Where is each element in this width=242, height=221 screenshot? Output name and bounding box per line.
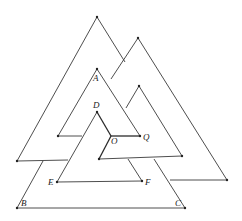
borromean-triangles-figure: A D O Q E F B C bbox=[0, 0, 242, 221]
label-d: D bbox=[93, 101, 100, 110]
label-a: A bbox=[93, 74, 99, 83]
outer-bottom-triangle bbox=[17, 159, 185, 208]
inner-right-triangle bbox=[99, 86, 182, 159]
inner-d-triangle bbox=[57, 112, 142, 182]
label-o: O bbox=[111, 137, 118, 146]
label-q: Q bbox=[143, 133, 150, 142]
label-b: B bbox=[21, 199, 27, 208]
label-c: C bbox=[175, 199, 181, 208]
label-e: E bbox=[48, 178, 54, 187]
outer-right-triangle bbox=[111, 38, 227, 180]
label-f: F bbox=[145, 178, 151, 187]
diagram-lines bbox=[0, 0, 242, 221]
